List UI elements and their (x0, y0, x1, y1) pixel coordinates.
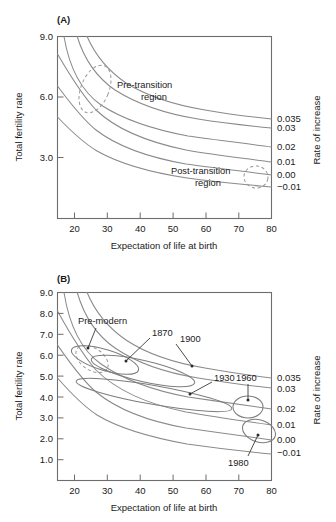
label-1930: 1930 (214, 373, 235, 383)
panel-a-rtick-003: 0.03 (277, 122, 296, 133)
panel-a-rtick-000: 0.00 (277, 169, 296, 180)
post-transition-label-line1: Post-transition (171, 166, 230, 176)
panel-b-leaders (87, 328, 260, 456)
curve-rate-000 (58, 345, 272, 440)
panel-b-xtick-3: 50 (168, 485, 179, 496)
panel-b-y-axis-title: Total fertility rate (13, 351, 24, 420)
panel-b-ytick-1: 2.0 (40, 433, 53, 444)
panel-b-rtick-003: 0.03 (277, 383, 296, 394)
panel-b: (B) (0, 260, 336, 522)
label-1900: 1900 (180, 334, 201, 344)
post-transition-label-line2: region (195, 178, 221, 188)
panel-b-xtick-6: 80 (266, 485, 277, 496)
panel-a-xtick-5: 70 (234, 223, 245, 234)
panel-b-ytick-5: 6.0 (40, 350, 53, 361)
curve-rate-002 (64, 37, 272, 148)
panel-a: (A) Pre-transition region Post-transitio… (0, 0, 336, 260)
label-1960: 1960 (236, 373, 257, 383)
panel-b-rtick-neg: −0.01 (277, 447, 301, 458)
panel-b-ytick-4: 5.0 (40, 371, 53, 382)
pre-transition-label-line2: region (141, 92, 167, 102)
panel-b-xtick-1: 30 (102, 485, 113, 496)
panel-b-rtick-0035: 0.035 (277, 372, 301, 383)
panel-a-x-ticks: 20 30 40 50 60 70 80 (69, 213, 277, 235)
panel-b-ytick-0: 1.0 (40, 454, 53, 465)
panel-b-plot: (B) (0, 260, 336, 522)
panel-b-x-axis-title: Expectation of life at birth (111, 502, 218, 513)
panel-a-curves (58, 37, 272, 188)
panel-b-ytick-8: 9.0 (40, 287, 53, 298)
cluster-1980 (239, 415, 278, 446)
label-pre-modern: Pre-modern (78, 316, 127, 326)
panel-b-xtick-2: 40 (135, 485, 146, 496)
panel-a-right-axis-title: Rate of increase (311, 95, 322, 164)
label-1870: 1870 (152, 328, 173, 338)
panel-b-xtick-5: 70 (234, 485, 245, 496)
panel-a-xtick-1: 30 (102, 223, 113, 234)
panel-b-xtick-4: 60 (201, 485, 212, 496)
panel-a-xtick-0: 20 (69, 223, 80, 234)
panel-b-rtick-001: 0.01 (277, 419, 296, 430)
panel-a-xtick-4: 60 (201, 223, 212, 234)
curve-rate-neg001 (58, 117, 272, 187)
panel-b-x-ticks: 20 30 40 50 60 70 80 (69, 475, 277, 497)
panel-b-ytick-7: 8.0 (40, 308, 53, 319)
cluster-1930 (75, 372, 234, 418)
panel-a-rtick-001: 0.01 (277, 156, 296, 167)
panel-a-rtick-002: 0.02 (277, 141, 296, 152)
panel-a-xtick-2: 40 (135, 223, 146, 234)
curve-rate-003 (77, 37, 271, 129)
panel-a-ytick-0: 3.0 (40, 152, 53, 163)
pre-transition-label-line1: Pre-transition (117, 80, 172, 90)
curve-rate-0035 (87, 37, 271, 120)
panel-a-rate-ticks: 0.035 0.03 0.02 0.01 0.00 −0.01 (277, 113, 301, 192)
panel-a-plot: (A) Pre-transition region Post-transitio… (0, 0, 336, 260)
panel-b-rtick-000: 0.00 (277, 434, 296, 445)
panel-b-rate-ticks: 0.035 0.03 0.02 0.01 0.00 −0.01 (277, 372, 301, 458)
panel-a-tag: (A) (57, 14, 70, 25)
panel-a-ytick-1: 6.0 (40, 91, 53, 102)
panel-b-ytick-2: 3.0 (40, 412, 53, 423)
panel-a-y-axis-title: Total fertility rate (13, 92, 24, 161)
panel-a-xtick-6: 80 (266, 223, 277, 234)
panel-b-right-axis-title: Rate of increase (311, 355, 322, 424)
panel-b-y-ticks: 9.0 8.0 7.0 6.0 5.0 4.0 3.0 2.0 1.0 (40, 287, 64, 465)
panel-a-xtick-3: 50 (168, 223, 179, 234)
panel-a-rtick-neg: −0.01 (277, 181, 301, 192)
panel-a-x-axis-title: Expectation of life at birth (111, 240, 218, 251)
panel-b-ytick-3: 4.0 (40, 392, 53, 403)
panel-b-xtick-0: 20 (69, 485, 80, 496)
panel-b-rtick-002: 0.02 (277, 403, 296, 414)
label-1980: 1980 (228, 458, 249, 468)
panel-a-ytick-2: 9.0 (40, 31, 53, 42)
panel-b-ytick-6: 7.0 (40, 329, 53, 340)
panel-b-tag: (B) (57, 273, 70, 284)
demographic-transition-figure: (A) Pre-transition region Post-transitio… (0, 0, 336, 522)
panel-a-y-ticks: 9.0 6.0 3.0 (40, 31, 64, 163)
